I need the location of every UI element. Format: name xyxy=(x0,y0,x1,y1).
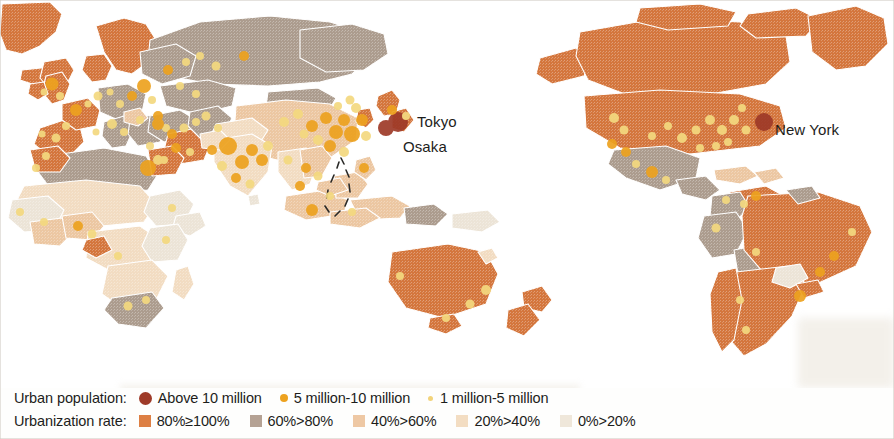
legend-item-rate-40-60[interactable]: 40%>60% xyxy=(353,413,436,429)
rate-swatch-80-100 xyxy=(139,415,151,427)
legend-label-rate-0-20: 0%>20% xyxy=(578,413,636,429)
legend-item-1-to-5-million[interactable]: 1 million-5 million xyxy=(428,390,548,406)
legend-row-urban-population: Urban population: Above 10 million 5 mil… xyxy=(14,390,548,406)
map-legend: Urban population: Above 10 million 5 mil… xyxy=(0,388,894,439)
legend-label-rate-40-60: 40%>60% xyxy=(371,413,436,429)
world-map-svg xyxy=(0,0,894,388)
legend-label-rate-20-40: 20%>40% xyxy=(474,413,539,429)
legend-label-rate-80-100: 80%≥100% xyxy=(157,413,230,429)
legend-row-urbanization-rate: Urbanization rate: 80%≥100% 60%>80% 40%>… xyxy=(14,413,635,429)
legend-title-urban-population: Urban population: xyxy=(14,390,127,406)
rate-swatch-60-80 xyxy=(250,415,262,427)
population-dot-medium xyxy=(280,394,288,402)
population-dot-small xyxy=(428,396,433,401)
legend-title-urbanization-rate: Urbanization rate: xyxy=(14,413,127,429)
frame-edge-left xyxy=(0,0,1,439)
city-label-new-york: New York xyxy=(775,121,839,138)
legend-label-5-to-10-million: 5 million-10 million xyxy=(294,390,410,406)
legend-label-1-to-5-million: 1 million-5 million xyxy=(440,390,548,406)
legend-item-5-to-10-million[interactable]: 5 million-10 million xyxy=(280,390,410,406)
world-map: Tokyo Osaka New York xyxy=(0,0,894,388)
population-dot-large xyxy=(139,392,152,405)
rate-swatch-0-20 xyxy=(560,415,572,427)
legend-label-above-10-million: Above 10 million xyxy=(158,390,262,406)
city-label-tokyo: Tokyo xyxy=(417,113,457,130)
legend-item-rate-80-100[interactable]: 80%≥100% xyxy=(139,413,230,429)
rate-swatch-40-60 xyxy=(353,415,365,427)
map-page: Tokyo Osaka New York Urban population: A… xyxy=(0,0,894,439)
legend-item-rate-60-80[interactable]: 60%>80% xyxy=(250,413,333,429)
rate-swatch-20-40 xyxy=(456,415,468,427)
legend-label-rate-60-80: 60%>80% xyxy=(268,413,333,429)
legend-item-rate-20-40[interactable]: 20%>40% xyxy=(456,413,539,429)
frame-edge-top xyxy=(0,0,894,1)
legend-item-rate-0-20[interactable]: 0%>20% xyxy=(560,413,636,429)
legend-item-above-10-million[interactable]: Above 10 million xyxy=(139,390,262,406)
city-label-osaka: Osaka xyxy=(403,138,447,155)
